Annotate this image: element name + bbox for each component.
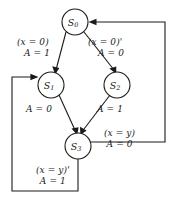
- edge-s3-s1-output: A = 1: [36, 176, 70, 187]
- edge-s0-s1-output: A = 1: [17, 48, 50, 59]
- edge-s3-s0-output: A = 0: [104, 139, 135, 150]
- node-s0[interactable]: S0: [62, 9, 88, 35]
- edge-label-s3-s0: (x = y) A = 0: [104, 128, 135, 150]
- edge-s1-s3-output: A = 0: [26, 104, 52, 115]
- state-diagram: S0 S1 S2 S3 (x = 0) A = 1 (x = 0)': [0, 0, 173, 201]
- edge-label-s3-s1: (x = y)' A = 1: [36, 165, 70, 187]
- node-s3[interactable]: S3: [65, 133, 91, 159]
- edge-s3-s0-arrowhead: [89, 19, 97, 25]
- edge-s0-s2-output: A = 0: [88, 48, 124, 59]
- edge-s0-to-s1: [52, 32, 66, 75]
- edge-label-s1-s3: A = 0: [26, 104, 52, 115]
- edge-s3-s1-arrowhead: [30, 74, 38, 80]
- node-s1[interactable]: S1: [38, 72, 64, 98]
- edge-label-s0-s2: (x = 0)' A = 0: [88, 37, 124, 59]
- edge-s1-s3-line: [59, 95, 75, 129]
- edge-label-s0-s1: (x = 0) A = 1: [17, 37, 50, 59]
- edge-s3-s1-condition: (x = y)': [36, 165, 70, 176]
- edge-s3-s0-condition: (x = y): [104, 128, 135, 139]
- edge-s1-to-s3: [59, 95, 79, 135]
- edge-label-s2-s3: A = 1: [97, 104, 123, 115]
- edge-s0-s1-condition: (x = 0): [17, 37, 50, 48]
- edge-s2-s3-output: A = 1: [97, 104, 123, 115]
- edge-s0-s2-condition: (x = 0)': [88, 37, 124, 48]
- edge-s0-s1-line: [57, 32, 67, 68]
- node-s2[interactable]: S2: [104, 72, 130, 98]
- state-diagram-canvas: S0 S1 S2 S3: [0, 0, 173, 201]
